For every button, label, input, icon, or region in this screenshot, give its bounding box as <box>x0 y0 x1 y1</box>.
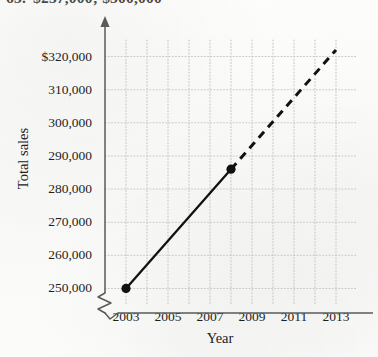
chart-plot-area <box>0 0 378 357</box>
scanned-textbook-figure: 63.$257,000; $300,000 Total sales Year $… <box>0 0 378 357</box>
